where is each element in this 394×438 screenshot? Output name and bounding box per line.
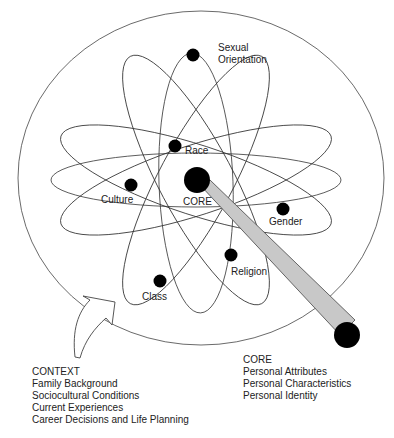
context-legend: CONTEXT Family Background Sociocultural … xyxy=(32,366,189,426)
core-legend: CORE Personal Attributes Personal Charac… xyxy=(243,354,351,402)
node-culture xyxy=(125,179,138,192)
core-item: Personal Attributes xyxy=(243,366,351,378)
label-culture: Culture xyxy=(101,194,133,206)
context-title: CONTEXT xyxy=(32,366,189,378)
node-religion xyxy=(225,249,238,262)
context-item: Sociocultural Conditions xyxy=(32,390,189,402)
core-node xyxy=(184,167,210,193)
node-sexual-orientation xyxy=(187,49,200,62)
core-item: Personal Identity xyxy=(243,390,351,402)
context-item: Current Experiences xyxy=(32,402,189,414)
core-item: Personal Characteristics xyxy=(243,378,351,390)
label-sexual-orientation: Sexual Orientation xyxy=(218,42,267,66)
label-core: CORE xyxy=(183,196,212,208)
label-race: Race xyxy=(185,145,208,157)
core-title: CORE xyxy=(243,354,351,366)
core-beam xyxy=(201,180,355,335)
label-class: Class xyxy=(142,291,167,303)
node-class xyxy=(154,275,167,288)
core-beam-end xyxy=(334,322,360,348)
node-gender xyxy=(277,203,290,216)
label-gender: Gender xyxy=(269,216,302,228)
node-race xyxy=(169,140,182,153)
context-item: Career Decisions and Life Planning xyxy=(32,414,189,426)
label-religion: Religion xyxy=(231,266,267,278)
context-item: Family Background xyxy=(32,378,189,390)
context-arrow-icon xyxy=(74,296,115,358)
